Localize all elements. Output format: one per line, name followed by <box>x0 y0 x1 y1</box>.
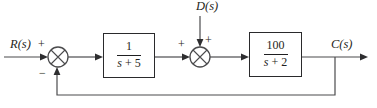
block2-fraction: 100 s+ 2 <box>264 39 288 70</box>
sum1-minus-sign: − <box>39 67 46 79</box>
sum1-plus-sign: + <box>38 38 45 50</box>
block2-input-arrowhead-icon <box>241 54 249 61</box>
transfer-function-block-2: 100 s+ 2 <box>249 32 302 77</box>
block1-input-arrowhead-icon <box>95 54 103 61</box>
disturbance-signal-label: D(s) <box>196 0 218 14</box>
block1-fraction: 1 s+ 5 <box>117 40 140 71</box>
input-signal-label: R(s) <box>10 38 31 52</box>
feedback-arrowhead-icon <box>54 67 61 75</box>
sum2-plus-top-sign: + <box>205 34 212 46</box>
block2-numerator: 100 <box>264 39 288 55</box>
diagram-wiring <box>0 0 377 108</box>
output-arrowhead-icon <box>360 54 368 61</box>
block1-numerator: 1 <box>117 40 140 56</box>
block-diagram-canvas: R(s) D(s) C(s) + − + + 1 s+ 5 100 s+ 2 <box>0 0 377 108</box>
sum2-input-arrowhead-icon <box>182 54 190 61</box>
input-arrowhead-icon <box>40 54 48 61</box>
block1-den-variable: s <box>117 56 122 70</box>
block2-den-variable: s <box>264 55 269 69</box>
block1-denominator: s+ 5 <box>117 56 140 71</box>
block2-den-rest: + 2 <box>271 55 287 69</box>
block1-den-rest: + 5 <box>125 56 141 70</box>
transfer-function-block-1: 1 s+ 5 <box>103 33 155 78</box>
block2-denominator: s+ 2 <box>264 55 288 70</box>
disturbance-arrowhead-icon <box>197 39 204 47</box>
output-signal-label: C(s) <box>331 38 353 52</box>
sum2-plus-left-sign: + <box>178 38 185 50</box>
